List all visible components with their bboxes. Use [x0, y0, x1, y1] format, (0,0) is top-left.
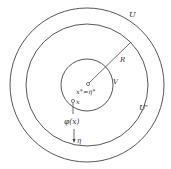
label-R: R — [119, 56, 126, 64]
arrow-head-icon — [73, 139, 76, 143]
label-x: x — [76, 98, 80, 106]
label-eta: η — [77, 137, 82, 145]
label-phi: φ(x) — [64, 117, 79, 126]
label-U: U — [129, 10, 136, 19]
label-U-prime: U' — [139, 103, 148, 112]
diagram-canvas: U U' V R x°=η° x φ(x) η — [0, 0, 171, 169]
center-point — [86, 82, 89, 85]
label-center: x°=η° — [76, 88, 96, 96]
point-x — [71, 99, 74, 102]
label-V: V — [113, 78, 119, 86]
